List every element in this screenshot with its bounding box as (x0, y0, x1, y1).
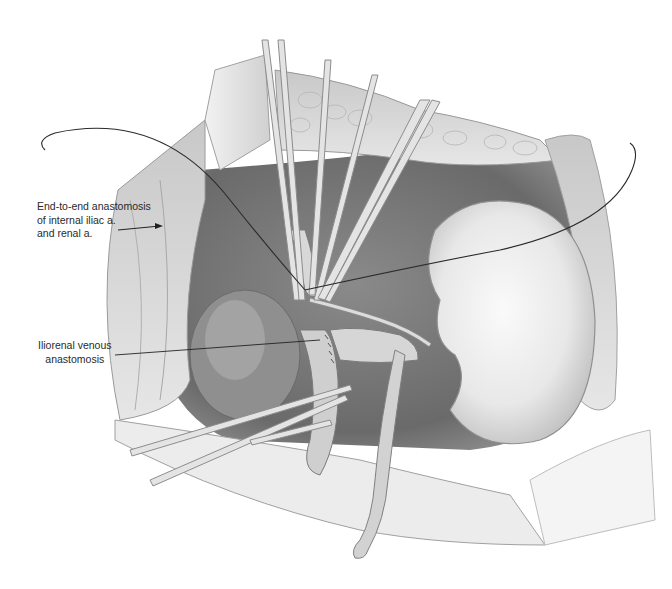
surgical-illustration (0, 0, 672, 589)
label-arterial-anastomosis: End-to-end anastomosis of internal iliac… (37, 200, 151, 241)
label-arterial-line2: of internal iliac a. (37, 214, 151, 228)
label-arterial-line1: End-to-end anastomosis (37, 200, 151, 214)
kidney (429, 201, 595, 444)
label-venous-line1: Iliorenal venous (38, 339, 112, 353)
label-venous-line2: anastomosis (38, 353, 112, 367)
retractor-top-left (205, 55, 270, 170)
label-venous-anastomosis: Iliorenal venous anastomosis (38, 339, 112, 366)
drape-right (530, 430, 655, 545)
label-arterial-line3: and renal a. (37, 227, 151, 241)
